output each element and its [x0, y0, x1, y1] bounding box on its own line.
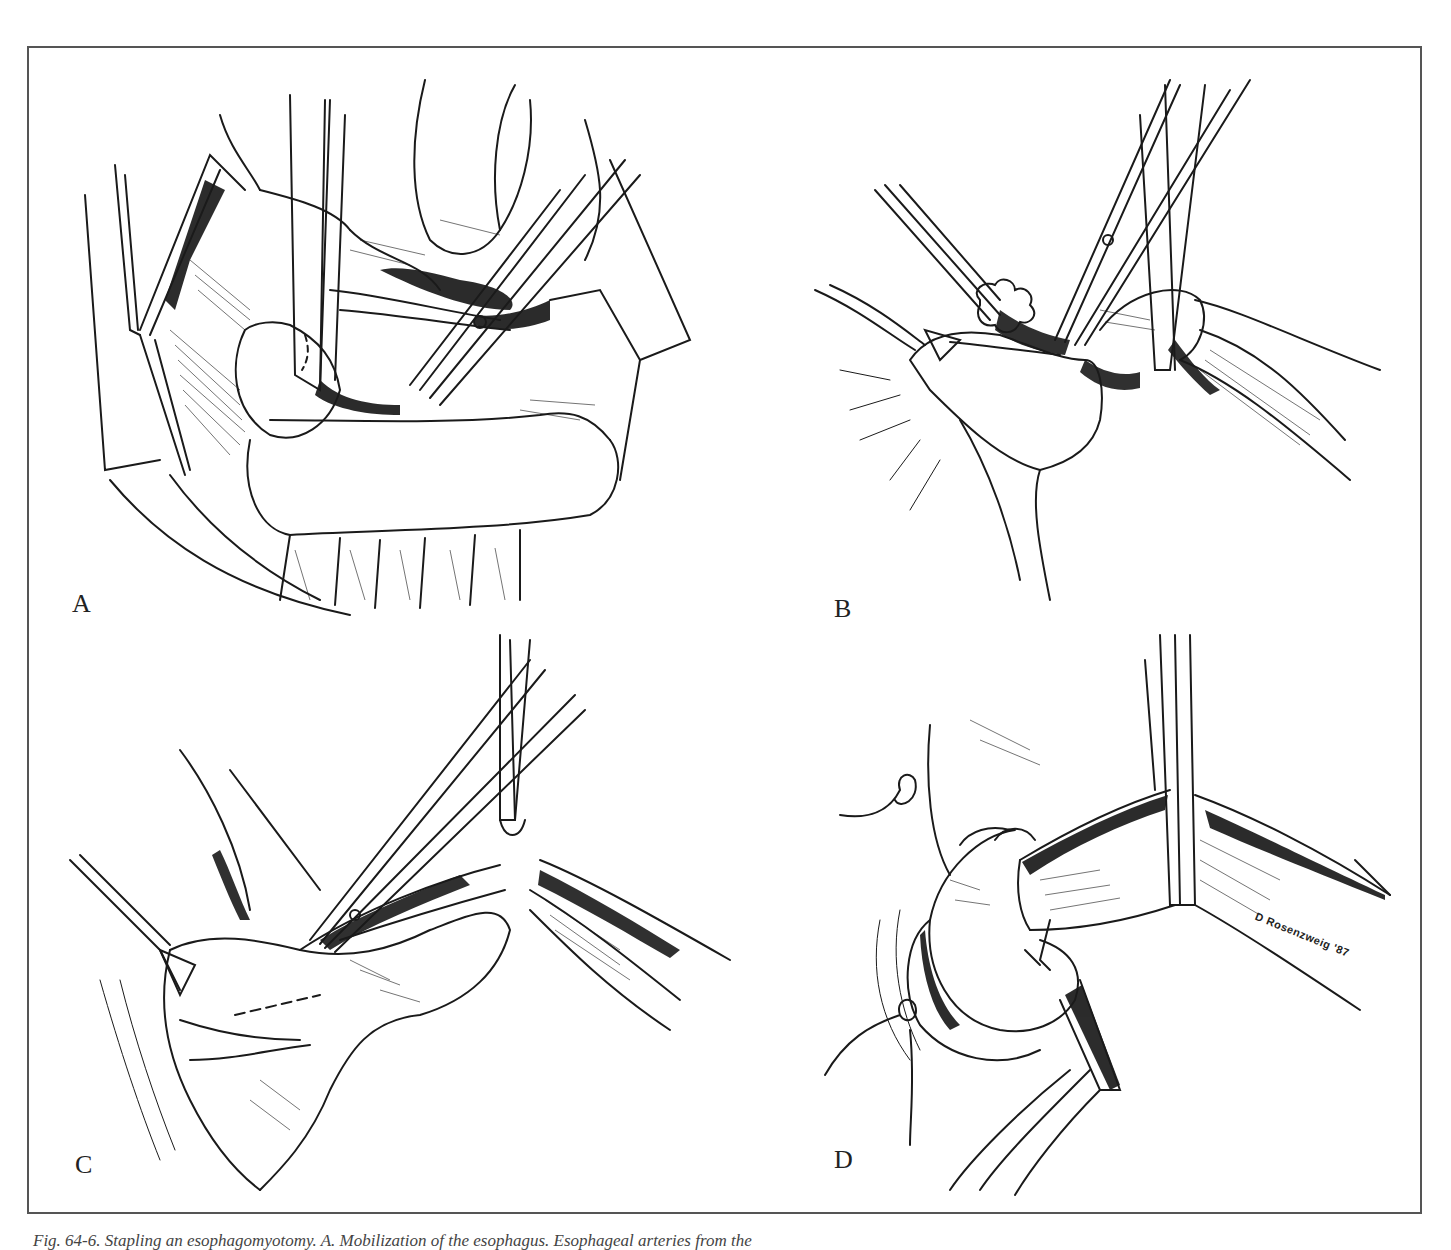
- figure-caption: Fig. 64-6. Stapling an esophagomyotomy. …: [33, 1232, 752, 1249]
- surgical-illustration-c: [60, 630, 760, 1200]
- surgical-illustration-d: [800, 630, 1420, 1200]
- panel-c-illustration: [60, 630, 760, 1200]
- panel-d-illustration: [800, 630, 1420, 1200]
- panel-label-c: C: [75, 1152, 92, 1178]
- panel-b-illustration: [800, 60, 1400, 620]
- panel-label-a: A: [72, 591, 91, 617]
- panel-label-b: B: [834, 596, 851, 622]
- panel-label-d: D: [834, 1147, 853, 1173]
- surgical-illustration-a: [80, 60, 720, 620]
- surgical-illustration-b: [800, 60, 1400, 620]
- panel-a-illustration: [80, 60, 720, 620]
